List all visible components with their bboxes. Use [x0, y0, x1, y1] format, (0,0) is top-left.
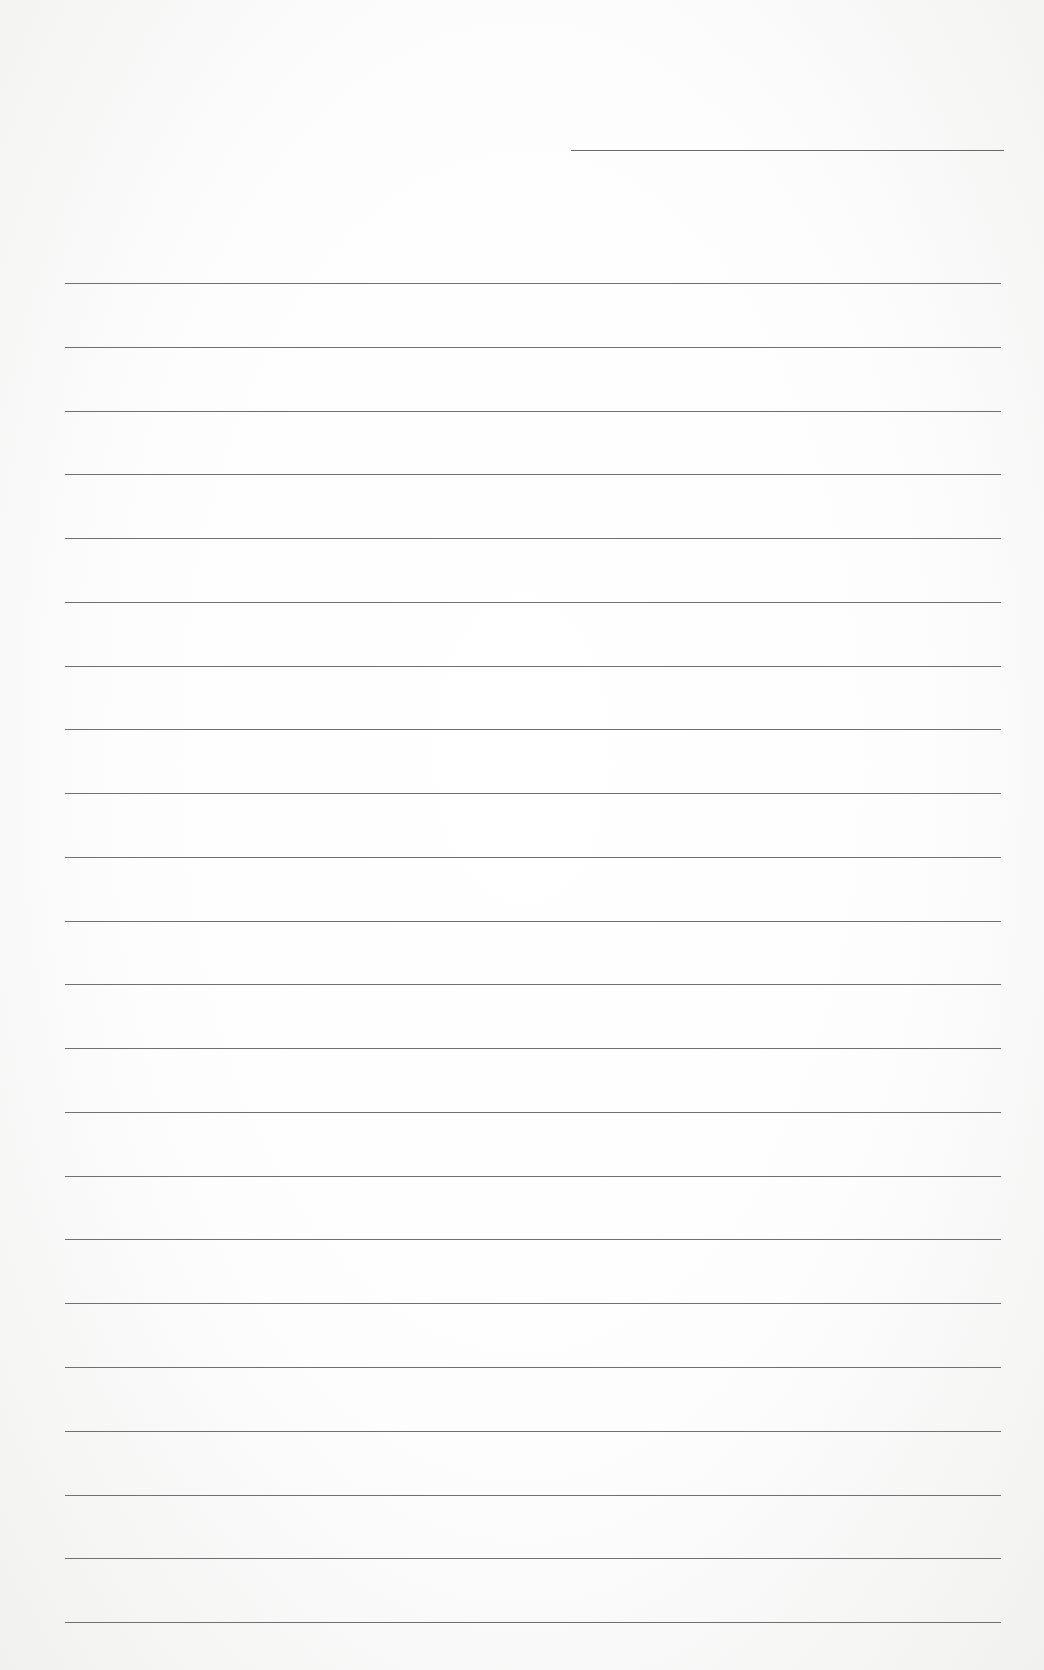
- ruled-line: [65, 984, 1001, 985]
- ruled-line: [65, 347, 1001, 348]
- ruled-line: [65, 857, 1001, 858]
- header-name-line: [571, 150, 1004, 151]
- ruled-line: [65, 793, 1001, 794]
- ruled-line: [65, 602, 1001, 603]
- ruled-line: [65, 1367, 1001, 1368]
- ruled-line: [65, 474, 1001, 475]
- ruled-line: [65, 1558, 1001, 1559]
- lined-paper-sheet: [0, 0, 1044, 1670]
- ruled-line: [65, 666, 1001, 667]
- ruled-line: [65, 1495, 1001, 1496]
- ruled-line: [65, 1303, 1001, 1304]
- ruled-line: [65, 1112, 1001, 1113]
- ruled-line: [65, 921, 1001, 922]
- ruled-line: [65, 729, 1001, 730]
- ruled-line: [65, 538, 1001, 539]
- ruled-line: [65, 1239, 1001, 1240]
- ruled-line: [65, 1431, 1001, 1432]
- ruled-line: [65, 1176, 1001, 1177]
- ruled-line: [65, 411, 1001, 412]
- ruled-line: [65, 1048, 1001, 1049]
- ruled-line: [65, 1622, 1001, 1623]
- ruled-line: [65, 283, 1001, 284]
